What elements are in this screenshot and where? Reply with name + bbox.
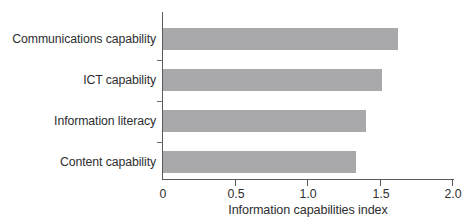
x-tick-label-0-5: 0.5 xyxy=(227,187,244,201)
x-tick-1-0 xyxy=(307,180,308,186)
bar-ict-capability xyxy=(163,69,382,91)
category-label-communications-capability: Communications capability xyxy=(0,32,156,46)
bar-chart: Communications capability ICT capability… xyxy=(0,0,474,224)
bar-communications-capability xyxy=(163,28,398,50)
plot-area xyxy=(163,12,453,180)
x-tick-0 xyxy=(162,173,163,180)
x-tick-label-0: 0 xyxy=(160,187,167,201)
x-tick-1-5 xyxy=(380,180,381,186)
x-tick-0-5 xyxy=(235,180,236,186)
bar-information-literacy xyxy=(163,110,366,132)
x-tick-label-1-5: 1.5 xyxy=(372,187,389,201)
x-tick-label-2-0: 2.0 xyxy=(444,187,461,201)
bar-content-capability xyxy=(163,151,356,173)
category-label-content-capability: Content capability xyxy=(0,155,156,169)
category-label-ict-capability: ICT capability xyxy=(0,73,156,87)
category-label-information-literacy: Information literacy xyxy=(0,114,156,128)
x-tick-label-1-0: 1.0 xyxy=(299,187,316,201)
x-axis-title: Information capabilities index xyxy=(163,203,453,217)
x-tick-2-0 xyxy=(452,180,453,186)
